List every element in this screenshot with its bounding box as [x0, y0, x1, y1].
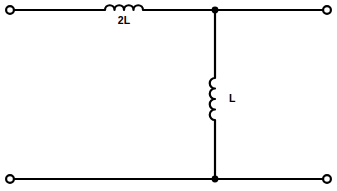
- terminal-input-bottom[interactable]: [6, 175, 14, 183]
- terminal-input-top[interactable]: [6, 6, 14, 14]
- junction-dot-bottom: [212, 176, 219, 183]
- circuit-diagram: 2L L: [0, 0, 337, 191]
- terminal-output-top[interactable]: [323, 6, 331, 14]
- terminal-output-bottom[interactable]: [323, 175, 331, 183]
- shunt-inductor-label: L: [229, 92, 236, 104]
- shunt-inductor-coil: [210, 78, 215, 120]
- series-inductor-label: 2L: [118, 14, 131, 26]
- series-inductor-coil: [105, 5, 143, 10]
- junction-dot-top: [212, 7, 219, 14]
- schematic-canvas: 2L L: [0, 0, 337, 191]
